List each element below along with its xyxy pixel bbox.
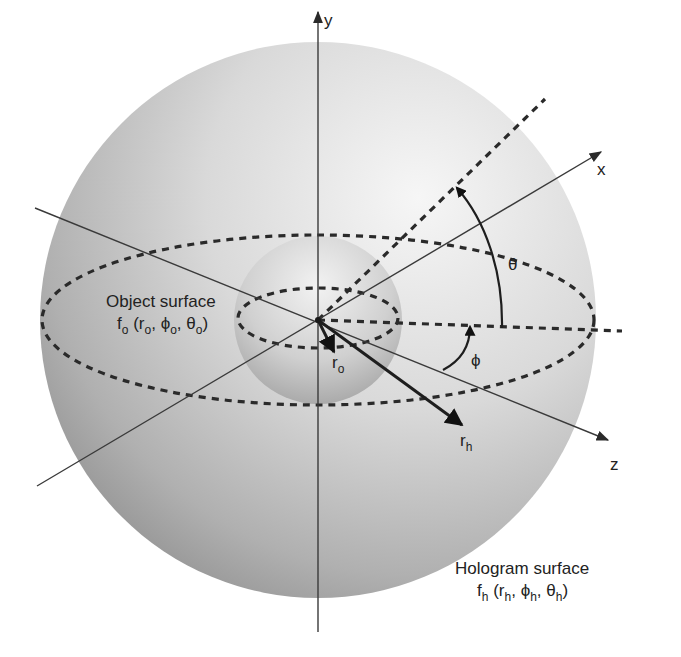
z-axis-label: z — [610, 455, 619, 474]
object-surface-title: Object surface — [106, 292, 216, 311]
origin-point — [315, 317, 321, 323]
hologram-surface-function: fh (rh, ϕh, θh) — [477, 581, 568, 604]
y-axis-label: y — [324, 11, 333, 30]
theta-label: θ — [508, 255, 517, 274]
spherical-hologram-diagram: y x z θ ϕ ro rh Object surface fo (ro, ϕ… — [0, 0, 681, 657]
phi-label: ϕ — [471, 351, 481, 370]
x-axis-label: x — [597, 160, 606, 179]
hologram-surface-title: Hologram surface — [455, 559, 589, 578]
